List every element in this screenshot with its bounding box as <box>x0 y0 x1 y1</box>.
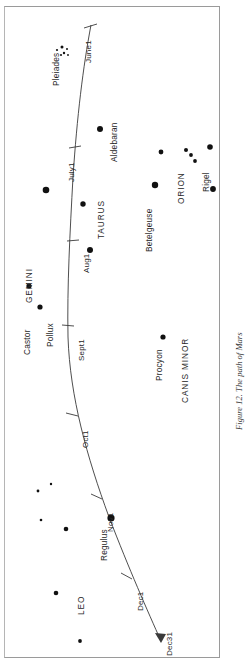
star-orion-belt-3 <box>193 159 197 163</box>
tick-aug1 <box>67 240 79 241</box>
label-pollux: Pollux <box>46 323 54 347</box>
label-dec1: Dec1 <box>137 592 145 611</box>
label-regulus: Regulus <box>100 529 108 561</box>
label-aldebaran: Aldebaran <box>110 122 118 162</box>
star-leo-5 <box>78 639 82 643</box>
label-procyon: Procyon <box>155 349 163 381</box>
star-denebola <box>54 591 59 596</box>
label-orion: ORION <box>177 172 185 204</box>
mars-path <box>68 25 161 641</box>
label-sept1: Sept1 <box>78 339 86 361</box>
label-canis-minor: CANIS MINOR <box>181 338 189 403</box>
label-rigel: Rigel <box>202 172 210 192</box>
label-aug1: Aug1 <box>83 254 91 273</box>
label-gemini: GEMINI <box>25 268 33 303</box>
star-leo-2 <box>40 519 43 522</box>
star-leo-1 <box>64 527 69 532</box>
star-rigel <box>207 144 213 150</box>
star-orion-belt-1 <box>184 148 188 152</box>
star-orion-belt-2 <box>189 153 193 157</box>
label-dec31: Dec31 <box>166 632 174 656</box>
label-leo: LEO <box>77 596 85 615</box>
figure-page: June1 July1 Aug1 Sept1 Oct1 Nov1 Dec1 De… <box>0 0 246 669</box>
star-taurus-extra <box>43 187 50 194</box>
star-leo-4 <box>50 483 52 485</box>
figure-caption: Figure 12. The path of Mars <box>234 332 244 430</box>
star-pollux <box>37 304 42 309</box>
tick-nov1 <box>91 494 102 499</box>
star-procyon <box>160 334 165 339</box>
label-taurus: TAURUS <box>97 200 105 239</box>
star-aldebaran <box>97 126 103 132</box>
star-taurus-horn <box>87 247 93 253</box>
label-castor: Castor <box>23 329 31 355</box>
sky-plot <box>5 7 219 657</box>
tick-sept1 <box>62 325 74 326</box>
label-june1: June1 <box>85 40 93 63</box>
label-pleiades: Pleiades <box>52 53 60 86</box>
tick-oct1 <box>66 413 78 416</box>
tick-dec1 <box>121 573 132 579</box>
label-oct1: Oct1 <box>82 430 90 448</box>
path-tick-marks <box>62 24 132 579</box>
label-july1: July1 <box>68 162 76 182</box>
star-orion-shoulder <box>159 150 164 155</box>
star-hyades <box>80 201 85 206</box>
star-betelgeuse <box>152 182 158 188</box>
label-betelgeuse: Betelgeuse <box>145 208 153 252</box>
star-leo-3 <box>37 490 40 493</box>
star-chart: June1 July1 Aug1 Sept1 Oct1 Nov1 Dec1 De… <box>5 7 219 657</box>
